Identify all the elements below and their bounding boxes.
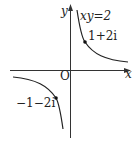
point-1-plus-2i	[83, 40, 87, 44]
y-axis-arrow-icon	[68, 4, 73, 11]
hyperbola-diagram: y x O xy=2 1+2i −1−2i	[0, 0, 139, 148]
origin-label: O	[60, 69, 70, 83]
y-axis-label: y	[60, 4, 68, 18]
x-axis-label: x	[125, 67, 132, 81]
equation-label: xy=2	[80, 9, 111, 23]
point-label-1-plus-2i: 1+2i	[88, 29, 117, 43]
point-label-minus-1-minus-2i: −1−2i	[16, 96, 55, 110]
